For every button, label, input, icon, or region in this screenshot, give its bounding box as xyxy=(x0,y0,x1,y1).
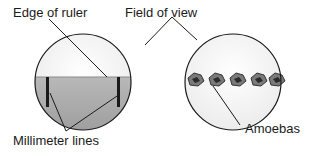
label-millimeter-lines: Millimeter lines xyxy=(13,134,99,147)
label-field-of-view: Field of view xyxy=(125,6,197,19)
label-edge-of-ruler: Edge of ruler xyxy=(13,6,87,19)
leader-field-of-view-right xyxy=(172,17,197,40)
millimeter-line-2 xyxy=(117,77,120,107)
right-field-of-view xyxy=(185,34,285,130)
left-field-of-view xyxy=(30,34,140,137)
millimeter-line-1 xyxy=(46,77,49,107)
label-amoebas: Amoebas xyxy=(245,122,300,135)
leader-field-of-view-left xyxy=(145,17,172,45)
